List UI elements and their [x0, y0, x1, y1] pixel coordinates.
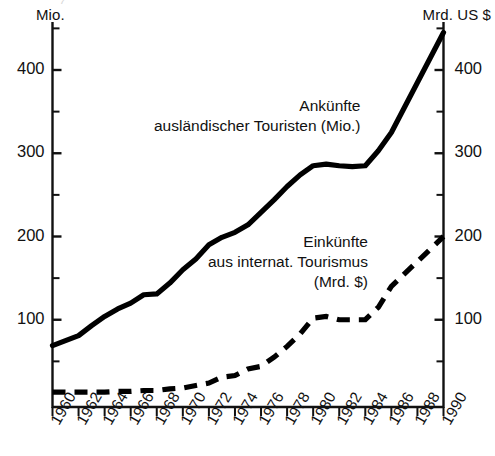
left-tick-label-300: 300: [1, 142, 45, 161]
right-tick-label-300: 300: [455, 142, 495, 161]
left-tick-label-100: 100: [1, 309, 45, 328]
right-tick-label-100: 100: [455, 309, 495, 328]
annotation-receipts-line2: aus internat. Tourismus: [208, 252, 368, 272]
annotation-receipts-line3: (Mrd. $): [208, 272, 368, 292]
annotation-receipts: Einkünfte aus internat. Tourismus (Mrd. …: [208, 232, 368, 292]
left-axis-ticks: [53, 28, 62, 361]
annotation-receipts-line1: Einkünfte: [208, 232, 368, 252]
chart-plot-area: [0, 0, 495, 456]
left-tick-label-400: 400: [1, 59, 45, 78]
annotation-arrivals-line2: ausländischer Touristen (Mio.): [154, 116, 360, 136]
right-tick-label-400: 400: [455, 59, 495, 78]
tourism-line-chart: ( Mio. Mrd. US $ 100200300400 1002003004…: [0, 0, 495, 456]
annotation-arrivals-line1: Ankünfte: [154, 96, 360, 116]
series-line-arrivals: [53, 33, 444, 346]
right-tick-label-200: 200: [455, 226, 495, 245]
right-axis-ticks: [435, 28, 444, 361]
left-tick-label-200: 200: [1, 226, 45, 245]
axis-lines: [52, 22, 444, 408]
annotation-arrivals: Ankünfte ausländischer Touristen (Mio.): [154, 96, 360, 136]
